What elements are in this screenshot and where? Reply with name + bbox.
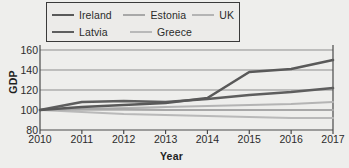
legend-label-uk: UK <box>219 9 234 21</box>
legend-item-ireland: Ireland <box>52 9 123 21</box>
legend-row-1: Ireland Estonia UK <box>52 6 234 23</box>
x-tick-label: 2014 <box>187 133 227 145</box>
legend-swatch-latvia <box>52 31 74 33</box>
legend-swatch-uk <box>192 14 214 16</box>
x-tick-label: 2015 <box>229 133 269 145</box>
x-tick-label: 2010 <box>20 133 60 145</box>
x-tick-label: 2016 <box>271 133 311 145</box>
x-tick-label: 2012 <box>104 133 144 145</box>
x-tick-label: 2013 <box>146 133 186 145</box>
legend-swatch-ireland <box>52 14 74 16</box>
legend-item-estonia: Estonia <box>123 9 192 21</box>
x-tick-label: 2011 <box>62 133 102 145</box>
legend-swatch-greece <box>130 31 152 33</box>
x-axis-title: Year <box>0 150 343 162</box>
legend-label-estonia: Estonia <box>150 9 186 21</box>
legend-swatch-estonia <box>123 14 145 16</box>
legend-item-uk: UK <box>192 9 234 21</box>
legend-item-latvia: Latvia <box>52 26 130 38</box>
legend-label-greece: Greece <box>157 26 192 38</box>
legend-item-greece: Greece <box>130 26 205 38</box>
legend-label-latvia: Latvia <box>79 26 108 38</box>
legend-row-2: Latvia Greece <box>52 23 234 40</box>
x-tick-label: 2017 <box>313 133 349 145</box>
legend-label-ireland: Ireland <box>79 9 112 21</box>
chart-legend: Ireland Estonia UK Latvia Greece <box>46 2 240 42</box>
y-axis-title: GDP <box>7 65 19 99</box>
